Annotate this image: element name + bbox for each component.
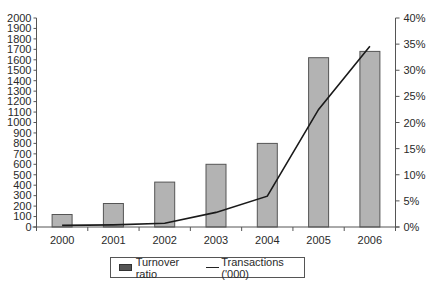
bar-2006 bbox=[360, 51, 380, 227]
legend-line-swatch bbox=[206, 267, 219, 268]
right-tick-label: 25% bbox=[404, 90, 426, 102]
left-tick-label: 600 bbox=[13, 158, 31, 170]
x-tick-label: 2002 bbox=[152, 234, 176, 246]
left-axis-ticks: 0100200300400500600700800900100011001200… bbox=[7, 12, 36, 233]
legend-line-label: Transactions ('000) bbox=[221, 256, 304, 280]
right-tick-label: 30% bbox=[404, 64, 426, 76]
right-axis-ticks: 0%5%10%15%20%25%30%35%40% bbox=[396, 12, 426, 233]
left-tick-label: 2000 bbox=[7, 12, 31, 24]
left-tick-label: 1100 bbox=[8, 106, 32, 118]
left-tick-label: 100 bbox=[13, 210, 31, 222]
x-tick-label: 2003 bbox=[204, 234, 228, 246]
right-tick-label: 0% bbox=[404, 221, 420, 233]
bar-2002 bbox=[155, 182, 175, 227]
left-tick-label: 200 bbox=[13, 200, 31, 212]
legend-bar-swatch bbox=[119, 264, 132, 271]
left-tick-label: 0 bbox=[25, 221, 31, 233]
left-tick-label: 700 bbox=[13, 148, 31, 160]
x-tick-label: 2005 bbox=[306, 234, 330, 246]
right-tick-label: 5% bbox=[404, 195, 420, 207]
left-tick-label: 400 bbox=[13, 179, 31, 191]
left-tick-label: 800 bbox=[13, 137, 31, 149]
x-tick-label: 2004 bbox=[255, 234, 279, 246]
x-tick-label: 2000 bbox=[50, 234, 74, 246]
left-tick-label: 500 bbox=[13, 169, 31, 181]
bar-2001 bbox=[103, 204, 123, 228]
right-tick-label: 20% bbox=[404, 117, 426, 129]
bar-series bbox=[52, 51, 380, 227]
left-tick-label: 300 bbox=[13, 189, 31, 201]
x-tick-label: 2006 bbox=[358, 234, 382, 246]
chart: 0100200300400500600700800900100011001200… bbox=[0, 0, 435, 293]
left-tick-label: 1900 bbox=[7, 22, 31, 34]
left-tick-label: 1400 bbox=[7, 75, 31, 87]
legend-bar-label: Turnover ratio bbox=[136, 256, 196, 280]
x-tick-label: 2001 bbox=[101, 234, 125, 246]
x-axis-ticks: 2000200120022003200420052006 bbox=[37, 227, 396, 246]
right-tick-label: 35% bbox=[404, 38, 426, 50]
right-tick-label: 10% bbox=[404, 169, 426, 181]
left-tick-label: 900 bbox=[13, 127, 31, 139]
right-tick-label: 40% bbox=[404, 12, 426, 24]
left-tick-label: 1800 bbox=[7, 33, 31, 45]
left-tick-label: 1000 bbox=[7, 116, 31, 128]
left-tick-label: 1200 bbox=[7, 95, 31, 107]
left-tick-label: 1300 bbox=[7, 85, 31, 97]
left-tick-label: 1700 bbox=[7, 43, 31, 55]
bar-2005 bbox=[309, 58, 329, 227]
legend: Turnover ratio Transactions ('000) bbox=[110, 257, 305, 278]
left-tick-label: 1500 bbox=[7, 64, 31, 76]
bar-2003 bbox=[206, 164, 226, 227]
left-tick-label: 1600 bbox=[7, 54, 31, 66]
right-tick-label: 15% bbox=[404, 143, 426, 155]
